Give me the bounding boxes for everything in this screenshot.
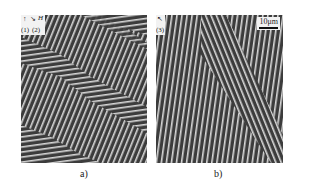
- scale-bar-label: 10μm: [259, 18, 278, 26]
- stripe-pattern-b: [156, 15, 283, 163]
- field-direction-inset: ↑ ↘ H (1) (2): [21, 15, 45, 35]
- panel-a-micrograph: ↑ ↘ H (1) (2): [21, 15, 147, 163]
- caption-a: a): [80, 168, 88, 179]
- scale-bar: 10μm: [257, 17, 280, 30]
- stripe-pattern-a: [21, 15, 147, 163]
- arrow-up-icon: ↑: [23, 16, 27, 23]
- field-direction-inset: ↖ (3): [156, 15, 165, 35]
- field-label: H: [38, 15, 43, 22]
- label-1: (1): [21, 27, 29, 34]
- arrow-diagonal-icon: ↘: [30, 16, 36, 23]
- panel-b-micrograph: ↖ (3) 10μm: [156, 15, 283, 163]
- label-3: (3): [156, 27, 164, 34]
- arrow-diagonal-icon: ↖: [157, 16, 163, 23]
- caption-b: b): [214, 168, 222, 179]
- label-2: (2): [32, 27, 40, 34]
- scale-bar-line: [259, 27, 278, 29]
